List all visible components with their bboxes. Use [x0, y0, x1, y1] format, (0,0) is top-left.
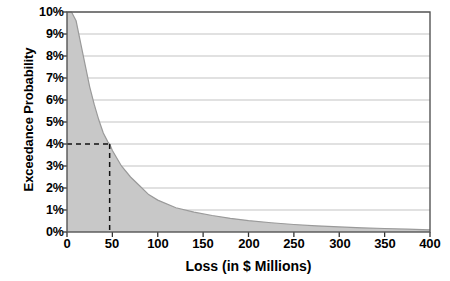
- plot-area: [0, 0, 450, 281]
- chart-container: Exceedance Probability Loss (in $ Millio…: [0, 0, 450, 281]
